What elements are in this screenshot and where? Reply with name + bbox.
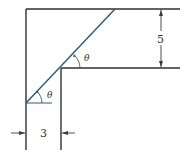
upper-angle-arc [74,55,80,68]
height-dimension-arrow-up-icon [159,10,163,16]
lower-angle-label: θ [47,90,53,100]
width-dimension-arrow-left-icon [62,131,68,135]
width-dimension-label: 3 [40,127,47,140]
ladder-line [26,9,115,103]
width-dimension-arrow-right-icon [19,131,25,135]
upper-angle-label: θ [84,53,90,63]
corridor-diagram: θ θ 5 3 [0,0,189,157]
height-dimension-arrow-down-icon [159,61,163,67]
upper-angle-arrowhead-icon [73,54,76,57]
lower-angle-arc [37,92,42,104]
height-dimension-label: 5 [157,33,164,46]
